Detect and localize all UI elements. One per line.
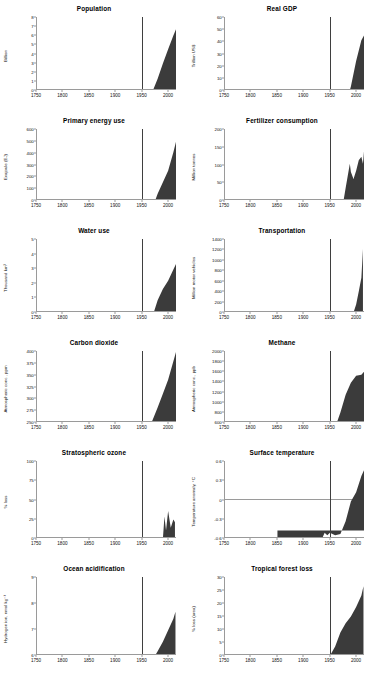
x-tick-label: 1750 [219,425,229,430]
y-tick-label: 350 [26,372,33,377]
x-tick-label: 1800 [245,93,255,98]
y-tick-label: 800 [214,268,221,273]
x-tick-mark [329,312,330,314]
y-tick-mark [34,62,36,63]
great-acceleration-chart-grid: PopulationBillion01234567817501800185019… [0,0,376,677]
y-tick-mark [34,351,36,352]
plot-area-wrapper: 0200400600800100012001400175018001850190… [224,239,364,312]
y-tick-mark [34,253,36,254]
series-area [225,239,364,312]
x-tick-label: 1750 [31,93,41,98]
x-tick-mark [250,200,251,202]
y-tick-mark [34,386,36,387]
x-tick-mark [224,655,225,657]
chart-panel: Stratospheric ozone% loss025507510017501… [0,444,188,560]
series-area [37,17,176,90]
x-tick-label: 1800 [245,425,255,430]
y-tick-mark [34,140,36,141]
x-tick-label: 1950 [325,315,335,320]
series-area [225,129,364,200]
y-tick-label: 300 [26,162,33,167]
x-tick-mark [303,538,304,540]
x-tick-label: 1750 [31,315,41,320]
chart-title: Stratospheric ozone [0,449,188,457]
plot-area-wrapper: 2502753003253503754001750180018501900195… [36,351,176,422]
chart-panel: TransportationMillion motor vehicles0200… [188,222,376,334]
x-tick-label: 2000 [351,425,361,430]
x-tick-label: 1850 [272,93,282,98]
series-area [37,239,176,312]
x-tick-mark [168,538,169,540]
x-tick-mark [303,312,304,314]
y-tick-mark [222,301,224,302]
y-tick-mark [222,291,224,292]
x-tick-mark [356,200,357,202]
series-area [37,577,176,655]
x-tick-label: 1850 [272,541,282,546]
marker-line-1950 [330,17,331,89]
x-tick-label: 1850 [272,203,282,208]
x-tick-label: 1850 [272,425,282,430]
x-tick-mark [356,312,357,314]
x-tick-label: 1800 [57,658,67,663]
plot-area [36,351,176,422]
x-tick-mark [36,312,37,314]
y-tick-label: 1000 [212,257,222,262]
x-tick-mark [303,200,304,202]
marker-line-1950 [142,461,143,537]
y-tick-label: 275 [26,408,33,413]
y-tick-label: 400 [26,349,33,354]
y-tick-mark [222,249,224,250]
x-tick-mark [329,655,330,657]
y-axis-label: Trillion US$ [191,21,196,91]
y-tick-label: 1400 [212,237,222,242]
x-tick-mark [141,655,142,657]
x-tick-mark [168,200,169,202]
x-tick-label: 1900 [110,425,120,430]
y-tick-label: 0.3 [216,478,222,483]
y-axis-label: Temperature anomaly, °C [191,467,196,537]
x-tick-mark [329,90,330,92]
x-tick-mark [115,200,116,202]
x-tick-mark [62,200,63,202]
y-tick-mark [34,461,36,462]
x-tick-label: 1950 [137,425,147,430]
x-tick-mark [356,538,357,540]
x-tick-label: 1800 [245,203,255,208]
x-tick-label: 2000 [351,315,361,320]
x-tick-mark [62,538,63,540]
y-tick-label: 1800 [212,359,222,364]
y-tick-mark [34,268,36,269]
y-tick-mark [222,239,224,240]
chart-panel: Carbon dioxideAtmospheric conc., ppm2502… [0,334,188,444]
x-tick-label: 1950 [137,93,147,98]
plot-area [36,239,176,312]
y-tick-mark [34,176,36,177]
x-tick-mark [88,200,89,202]
y-tick-label: 0.6 [216,459,222,464]
x-tick-label: 1900 [110,203,120,208]
y-tick-label: -0.3 [214,516,222,521]
y-tick-label: 1600 [212,369,222,374]
y-tick-mark [222,603,224,604]
marker-line-1950 [330,351,331,421]
x-tick-label: 1750 [31,203,41,208]
x-tick-label: 1850 [272,658,282,663]
y-tick-label: 250 [26,420,33,425]
plot-area-wrapper: 012345175018001850190019502000 [36,239,176,312]
plot-area-wrapper: 6008001000120014001600180020001750180018… [224,351,364,422]
x-tick-mark [329,200,330,202]
x-tick-label: 1850 [84,315,94,320]
x-tick-label: 1800 [245,315,255,320]
y-tick-label: 1400 [212,379,222,384]
x-tick-label: 1900 [298,315,308,320]
x-tick-label: 1850 [84,203,94,208]
chart-panel: Ocean acidificationHydrogen ion, nmol kg… [0,560,188,677]
series-area [225,461,364,538]
y-tick-label: 1000 [212,399,222,404]
y-tick-mark [222,270,224,271]
x-tick-label: 1800 [57,541,67,546]
y-tick-label: 400 [26,150,33,155]
x-tick-mark [224,312,225,314]
marker-line-1950 [142,239,143,311]
